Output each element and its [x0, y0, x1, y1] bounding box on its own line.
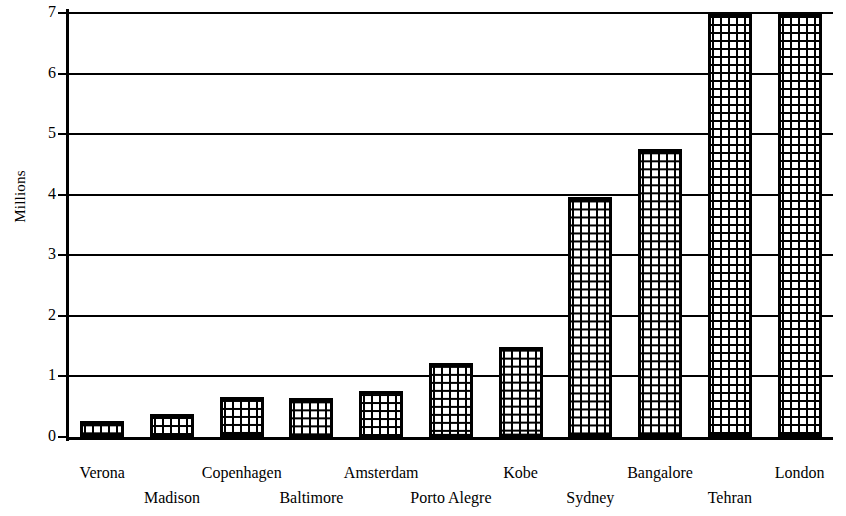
bar-series [66, 13, 833, 437]
y-axis-tick-label: 7 [32, 4, 56, 20]
bar [499, 347, 543, 437]
bar [220, 397, 264, 437]
y-axis-tick-label: 3 [32, 246, 56, 262]
y-axis-tick-label: 0 [32, 428, 56, 444]
bar [778, 13, 822, 437]
x-axis-category-label: Tehran [708, 490, 752, 506]
bar [429, 363, 473, 437]
y-axis-tick-label: 4 [32, 186, 56, 202]
x-axis-category-label: Madison [144, 490, 200, 506]
plot-area: 01234567 [66, 13, 833, 437]
y-axis-title: Millions [12, 147, 29, 247]
x-axis-category-label: Bangalore [627, 465, 693, 481]
bar-chart: Millions 01234567 VeronaMadisonCopenhage… [0, 0, 846, 516]
x-axis-category-label: Kobe [503, 465, 538, 481]
x-axis-line [66, 437, 833, 440]
y-axis-tick-label: 1 [32, 367, 56, 383]
x-axis-category-label: Copenhagen [202, 465, 282, 481]
x-axis-category-labels: VeronaMadisonCopenhagenBaltimoreAmsterda… [0, 455, 846, 516]
bar [80, 421, 124, 437]
bar [638, 149, 682, 437]
x-axis-category-label: Baltimore [279, 490, 343, 506]
bar [359, 391, 403, 437]
y-axis-tick-label: 6 [32, 65, 56, 81]
x-axis-category-label: Sydney [566, 490, 614, 506]
bar [708, 13, 752, 437]
x-axis-category-label: Porto Alegre [410, 490, 491, 506]
x-axis-category-label: Verona [80, 465, 125, 481]
x-axis-category-label: London [775, 465, 825, 481]
x-axis-category-label: Amsterdam [344, 465, 419, 481]
y-axis-tick-label: 2 [32, 307, 56, 323]
bar [150, 414, 194, 437]
bar [289, 398, 333, 437]
bar [568, 197, 612, 437]
y-axis-tick-label: 5 [32, 125, 56, 141]
